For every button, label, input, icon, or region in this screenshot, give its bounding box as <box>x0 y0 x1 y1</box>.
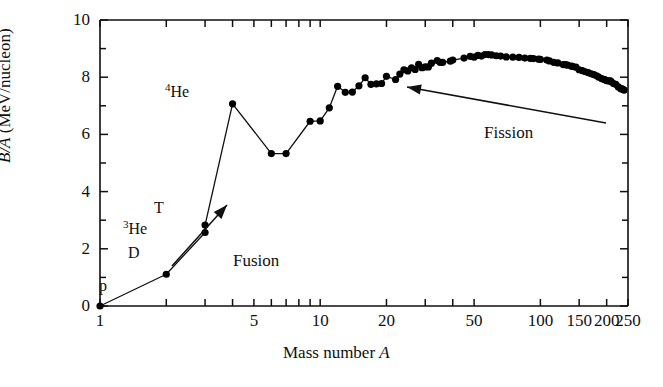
annotation-arrows <box>172 84 606 266</box>
y-axis-title-units: (MeV/nucleon) <box>0 28 14 137</box>
y-axis-title-symbol: B/A <box>0 138 14 164</box>
label-tritium-text: T <box>154 199 164 216</box>
label-tritium: T <box>154 200 164 216</box>
label-helium-3-symbol: He <box>129 220 148 237</box>
label-proton-text: p <box>99 277 107 294</box>
x-tick-label: 5 <box>224 312 284 329</box>
x-axis-title-symbol: A <box>379 343 389 362</box>
annotation-fission: Fission <box>484 124 533 141</box>
y-tick-label: 2 <box>42 240 90 257</box>
y-tick-label: 8 <box>42 68 90 85</box>
label-proton: p <box>99 278 107 294</box>
x-axis-title: Mass number A <box>283 344 390 361</box>
label-helium-4: 4He <box>165 82 189 100</box>
y-tick-label: 4 <box>42 183 90 200</box>
binding-energy-curve-figure: B/A (MeV/nucleon) Mass number A p D T 3H… <box>0 0 663 387</box>
y-tick-label: 0 <box>42 297 90 314</box>
annotation-fusion: Fusion <box>233 252 279 269</box>
x-axis-title-text: Mass number <box>283 343 379 362</box>
x-tick-label: 250 <box>598 312 658 329</box>
y-axis-title: B/A (MeV/nucleon) <box>0 0 13 163</box>
x-tick-label: 1 <box>70 312 130 329</box>
label-deuteron: D <box>128 245 140 261</box>
y-tick-label: 10 <box>42 11 90 28</box>
label-helium-3: 3He <box>123 219 147 237</box>
x-tick-label: 50 <box>444 312 504 329</box>
x-tick-label: 20 <box>356 312 416 329</box>
x-tick-label: 10 <box>290 312 350 329</box>
annotation-fusion-text: Fusion <box>233 251 279 270</box>
label-helium-4-symbol: He <box>171 83 190 100</box>
annotation-fission-text: Fission <box>484 123 533 142</box>
label-deuteron-text: D <box>128 244 140 261</box>
y-tick-label: 6 <box>42 125 90 142</box>
